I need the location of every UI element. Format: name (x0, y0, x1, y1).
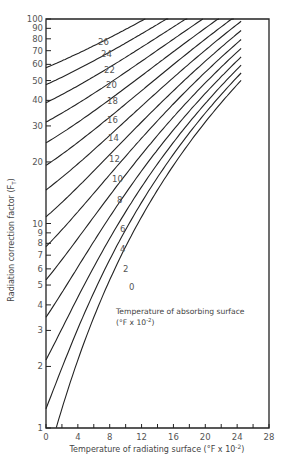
x-tick-label: 4 (75, 432, 80, 442)
y-tick-label: 30 (32, 121, 43, 131)
curve-labels: 02468101214161820222426 (98, 37, 134, 292)
y-tick-label: 2 (38, 361, 43, 371)
curve-label-0: 0 (129, 282, 134, 292)
annotation-line1: Temperature of absorbing surface (115, 307, 245, 316)
x-tick-label: 0 (43, 432, 48, 442)
y-tick-label: 7 (38, 250, 43, 260)
curve-label-18: 18 (107, 96, 118, 106)
curve-22 (46, 19, 187, 103)
curve-label-20: 20 (106, 80, 117, 90)
x-tick-label: 28 (264, 432, 275, 442)
y-tick-label: 3 (38, 325, 43, 335)
curve-label-14: 14 (108, 133, 119, 143)
curve-label-16: 16 (107, 115, 118, 125)
y-tick-label: 1 (38, 423, 43, 433)
curve-label-2: 2 (123, 264, 128, 274)
y-tick-label: 9 (38, 228, 43, 238)
y-tick-label: 20 (32, 157, 43, 167)
curve-label-26: 26 (98, 37, 109, 47)
curve-label-10: 10 (112, 174, 123, 184)
chart-curves (46, 19, 241, 428)
curve-26 (46, 19, 145, 68)
y-tick-label: 70 (32, 46, 43, 56)
curve-8 (46, 48, 241, 280)
y-tick-label: 6 (38, 264, 43, 274)
x-tick-label: 24 (232, 432, 243, 442)
curve-20 (46, 19, 203, 122)
x-tick-label: 12 (136, 432, 147, 442)
curve-label-22: 22 (104, 65, 115, 75)
y-tick-label: 50 (32, 76, 43, 86)
y-axis-title: Radiation correction factor (FT) (7, 178, 17, 301)
curve-label-24: 24 (101, 49, 112, 59)
radiation-correction-chart: 0481216202428123456789102030405060708090… (0, 0, 287, 470)
y-tick-label: 8 (38, 238, 43, 248)
y-tick-label: 80 (32, 34, 43, 44)
y-tick-label: 100 (27, 14, 43, 24)
x-tick-label: 20 (200, 432, 211, 442)
y-tick-label: 5 (38, 280, 43, 290)
curve-label-6: 6 (120, 224, 125, 234)
x-tick-label: 16 (168, 432, 179, 442)
x-axis-title: Temperature of radiating surface (°F x 1… (69, 443, 245, 454)
curve-0 (56, 80, 241, 427)
curve-label-12: 12 (109, 154, 120, 164)
x-tick-label: 8 (107, 432, 112, 442)
annotation-line2: (°F x 10-2) (116, 317, 155, 327)
curve-16 (46, 19, 234, 165)
y-tick-label: 40 (32, 95, 43, 105)
curve-18 (46, 19, 219, 143)
y-tick-label: 10 (32, 219, 43, 229)
y-tick-label: 90 (32, 23, 43, 33)
y-tick-label: 60 (32, 59, 43, 69)
curve-label-4: 4 (120, 244, 125, 254)
curve-2 (46, 73, 241, 409)
curve-label-8: 8 (117, 195, 122, 205)
y-tick-label: 4 (38, 300, 43, 310)
